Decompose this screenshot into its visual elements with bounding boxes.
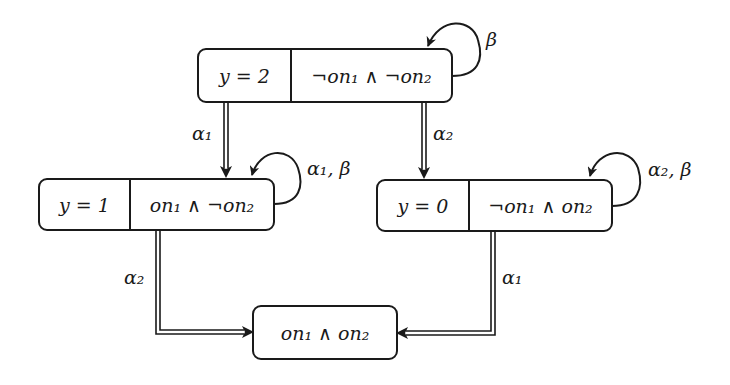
label-loop-s1: α₁, β	[307, 157, 351, 179]
state-final: on₁ ∧ on₂	[252, 305, 398, 360]
state-y0-condition: ¬on₁ ∧ on₂	[470, 181, 611, 230]
state-y1-condition: on₁ ∧ ¬on₂	[131, 180, 273, 229]
state-y1: y = 1 on₁ ∧ ¬on₂	[38, 178, 275, 231]
condition-label: ¬on₁ ∧ ¬on₂	[311, 65, 431, 87]
condition-label: ¬on₁ ∧ on₂	[488, 195, 593, 217]
state-y2-condition: ¬on₁ ∧ ¬on₂	[292, 50, 451, 101]
condition-label: on₁ ∧ on₂	[281, 322, 370, 344]
state-y2-value: y = 2	[199, 50, 292, 101]
state-y1-value: y = 1	[40, 180, 131, 229]
y-label: y = 2	[219, 65, 270, 87]
label-s0-sf: α₁	[502, 266, 522, 288]
label-s2-s1: α₁	[192, 122, 212, 144]
condition-label: on₁ ∧ ¬on₂	[150, 194, 255, 216]
edge-s2-s0	[418, 102, 430, 179]
state-y0-value: y = 0	[378, 181, 470, 230]
label-loop-s0: α₂, β	[648, 158, 692, 180]
state-y2: y = 2 ¬on₁ ∧ ¬on₂	[197, 48, 453, 103]
label-s1-sf: α₂	[124, 266, 144, 288]
edge-s2-s1	[220, 102, 232, 178]
edge-s0-sf	[396, 231, 495, 339]
edge-s1-sf	[156, 230, 254, 338]
y-label: y = 1	[59, 194, 110, 216]
state-y0: y = 0 ¬on₁ ∧ on₂	[376, 179, 613, 232]
state-final-condition: on₁ ∧ on₂	[254, 307, 396, 358]
label-loop-s2: β	[486, 28, 497, 50]
y-label: y = 0	[398, 195, 449, 217]
label-s2-s0: α₂	[433, 122, 453, 144]
